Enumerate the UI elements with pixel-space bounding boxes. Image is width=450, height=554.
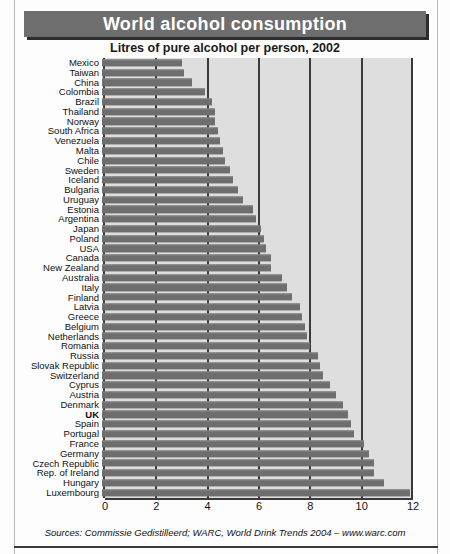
- bar-china: [102, 79, 192, 86]
- bar-track: [102, 204, 426, 214]
- page-title: World alcohol consumption: [24, 11, 426, 37]
- bar-track: [102, 68, 426, 78]
- x-tick-label-0: 0: [102, 501, 108, 512]
- frame-right-border: [437, 0, 438, 554]
- bar-track: [102, 419, 426, 429]
- bar-cyprus: [102, 382, 330, 389]
- bar-poland: [102, 235, 264, 242]
- category-label-germany: Germany: [24, 449, 102, 459]
- bar-russia: [102, 352, 318, 359]
- bar-track: [102, 458, 426, 468]
- bar-switzerland: [102, 372, 323, 379]
- bar-track: [102, 488, 426, 498]
- chart-area: MexicoTaiwanChinaColombiaBrazilThailandN…: [24, 58, 426, 498]
- bar-australia: [102, 274, 282, 281]
- bar-track: [102, 312, 426, 322]
- frame-left-border: [14, 0, 15, 554]
- bar-track: [102, 156, 426, 166]
- bar-track: [102, 87, 426, 97]
- table-row: Germany: [24, 449, 426, 459]
- title-bar: World alcohol consumption: [24, 11, 426, 37]
- bar-iceland: [102, 176, 233, 183]
- bar-luxembourg: [102, 489, 410, 496]
- bar-track: [102, 97, 426, 107]
- bar-track: [102, 78, 426, 88]
- bar-germany: [102, 450, 369, 457]
- category-label-uruguay: Uruguay: [24, 195, 102, 205]
- x-tick-label-4: 4: [205, 501, 211, 512]
- category-label-italy: Italy: [24, 283, 102, 293]
- bar-malta: [102, 147, 223, 154]
- category-label-belgium: Belgium: [24, 322, 102, 332]
- bar-new-zealand: [102, 264, 271, 271]
- bar-track: [102, 361, 426, 371]
- bar-denmark: [102, 401, 343, 408]
- category-label-denmark: Denmark: [24, 400, 102, 410]
- bar-track: [102, 410, 426, 420]
- frame-bottom-border: [14, 546, 438, 548]
- bar-track: [102, 224, 426, 234]
- bar-latvia: [102, 303, 300, 310]
- bar-spain: [102, 421, 351, 428]
- bar-taiwan: [102, 69, 184, 76]
- bar-track: [102, 165, 426, 175]
- bar-italy: [102, 284, 287, 291]
- bar-uk: [102, 411, 348, 418]
- bar-slovak-republic: [102, 362, 320, 369]
- bar-track: [102, 214, 426, 224]
- bar-thailand: [102, 108, 215, 115]
- bar-france: [102, 440, 364, 447]
- bar-track: [102, 351, 426, 361]
- bar-track: [102, 292, 426, 302]
- bar-netherlands: [102, 333, 307, 340]
- bar-track: [102, 175, 426, 185]
- category-label-luxembourg: Luxembourg: [24, 488, 102, 498]
- bar-track: [102, 380, 426, 390]
- bar-rep-of-ireland: [102, 469, 374, 476]
- table-row: Chile: [24, 156, 426, 166]
- bar-track: [102, 468, 426, 478]
- category-label-poland: Poland: [24, 234, 102, 244]
- bar-uruguay: [102, 196, 243, 203]
- bar-colombia: [102, 89, 205, 96]
- bar-track: [102, 117, 426, 127]
- bar-track: [102, 253, 426, 263]
- bar-track: [102, 341, 426, 351]
- bar-track: [102, 136, 426, 146]
- x-tick-label-8: 8: [307, 501, 313, 512]
- x-axis: 024681012: [24, 498, 426, 518]
- bar-track: [102, 273, 426, 283]
- bar-track: [102, 263, 426, 273]
- x-tick-label-12: 12: [407, 501, 419, 512]
- bar-rows: MexicoTaiwanChinaColombiaBrazilThailandN…: [24, 58, 426, 498]
- bar-brazil: [102, 98, 212, 105]
- bar-mexico: [102, 59, 182, 66]
- bar-track: [102, 331, 426, 341]
- category-label-taiwan: Taiwan: [24, 68, 102, 78]
- category-label-slovak-republic: Slovak Republic: [24, 361, 102, 371]
- bar-track: [102, 322, 426, 332]
- bar-usa: [102, 245, 266, 252]
- bar-track: [102, 449, 426, 459]
- bar-track: [102, 58, 426, 68]
- bar-track: [102, 400, 426, 410]
- bar-estonia: [102, 206, 253, 213]
- bar-romania: [102, 342, 310, 349]
- source-note: Sources: Commissie Gedistilleerd; WARC, …: [24, 527, 426, 538]
- bar-bulgaria: [102, 186, 238, 193]
- x-tick-label-10: 10: [356, 501, 368, 512]
- bar-czech-republic: [102, 460, 374, 467]
- bar-venezuela: [102, 137, 220, 144]
- bar-track: [102, 126, 426, 136]
- bar-south-africa: [102, 128, 218, 135]
- table-row: Italy: [24, 283, 426, 293]
- bar-sweden: [102, 167, 230, 174]
- bar-track: [102, 107, 426, 117]
- bar-track: [102, 478, 426, 488]
- bar-hungary: [102, 479, 384, 486]
- bar-canada: [102, 255, 271, 262]
- bar-track: [102, 146, 426, 156]
- bar-norway: [102, 118, 215, 125]
- category-label-chile: Chile: [24, 156, 102, 166]
- bar-track: [102, 371, 426, 381]
